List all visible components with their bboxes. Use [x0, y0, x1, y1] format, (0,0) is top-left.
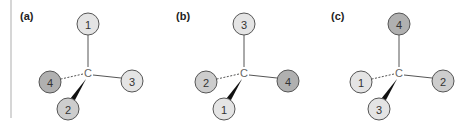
bond-dashed [372, 74, 394, 79]
substituent-number: 2 [203, 77, 209, 89]
panel-label: (a) [20, 10, 34, 22]
substituent-number: 4 [285, 76, 291, 88]
bond-right [93, 75, 121, 78]
substituent-number: 1 [85, 19, 91, 31]
bond-right [249, 75, 277, 78]
bond-wedge [70, 79, 86, 100]
substituent-number: 2 [440, 76, 446, 88]
substituent-number: 4 [396, 19, 402, 31]
carbon-label: C [240, 67, 248, 79]
substituent-number: 2 [65, 104, 71, 116]
substituent-number: 3 [241, 19, 247, 31]
bond-dashed [61, 74, 83, 79]
panel-c: (c)C4123 [331, 10, 454, 120]
panel-label: (b) [176, 10, 190, 22]
bond-right [404, 75, 432, 78]
bond-dashed [217, 74, 239, 79]
panel-a: (a)C1432 [20, 10, 143, 120]
panel-b: (b)C3241 [176, 10, 299, 120]
substituent-number: 3 [129, 76, 135, 88]
substituent-number: 1 [358, 77, 364, 89]
carbon-label: C [395, 67, 403, 79]
substituent-number: 4 [47, 77, 53, 89]
carbon-label: C [84, 67, 92, 79]
panel-label: (c) [331, 10, 345, 22]
bond-wedge [381, 79, 397, 100]
substituent-number: 3 [376, 104, 382, 116]
bond-wedge [226, 79, 242, 100]
substituent-number: 1 [221, 104, 227, 116]
tetrahedral-carbon-diagram: (a)C1432(b)C3241(c)C4123 [0, 0, 467, 134]
